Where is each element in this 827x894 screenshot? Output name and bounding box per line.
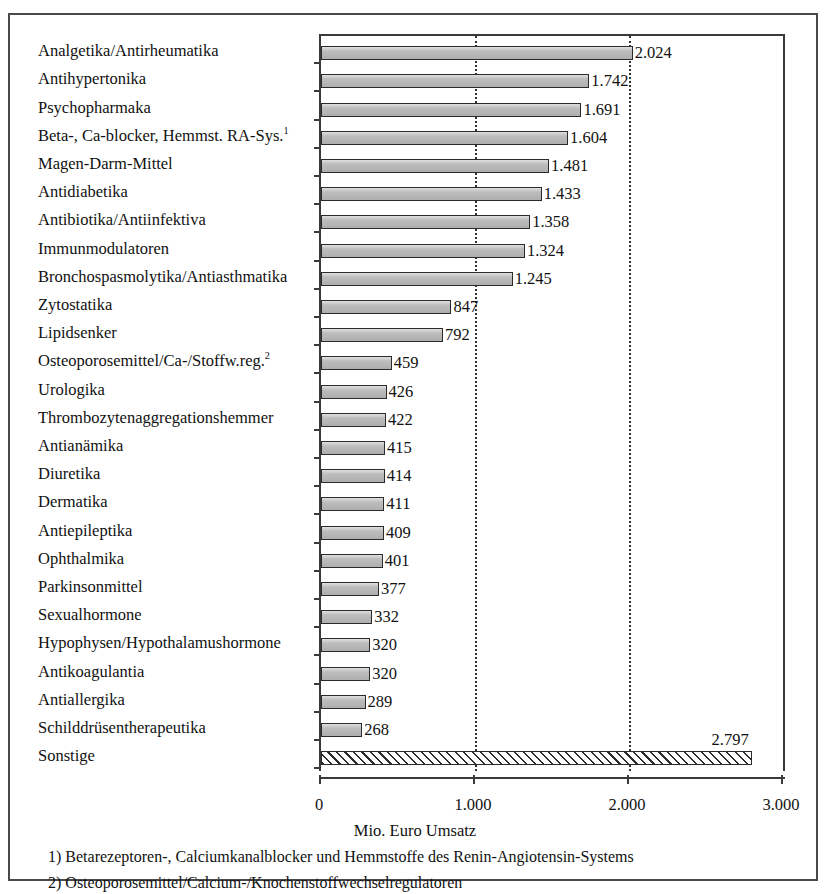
x-tick-mark	[627, 775, 629, 784]
bar-value-label: 1.742	[591, 73, 628, 90]
y-axis-tick	[314, 372, 321, 374]
bar: 1.604	[321, 131, 568, 145]
bar-row: 459	[321, 353, 783, 373]
x-tick-mark	[781, 775, 783, 784]
bar: 1.691	[321, 103, 581, 117]
x-tick-mark	[319, 775, 321, 784]
bar-row: 332	[321, 607, 783, 627]
bar-value-label: 289	[368, 693, 393, 710]
x-axis: 01.0002.0003.000	[319, 777, 785, 779]
x-tick-label: 1.000	[454, 797, 491, 814]
category-label: Beta-, Ca-blocker, Hemmst. RA-Sys.1	[38, 127, 289, 144]
category-label: Antikoagulantia	[38, 663, 144, 680]
category-label: Dermatika	[38, 494, 108, 511]
y-axis-tick	[314, 711, 321, 713]
category-label: Diuretika	[38, 466, 100, 483]
bar-sonstige: 2.797	[321, 751, 752, 765]
bar: 1.324	[321, 244, 525, 258]
bar-row: 1.324	[321, 241, 783, 261]
bar: 1.358	[321, 215, 530, 229]
bar: 409	[321, 526, 384, 540]
bar: 332	[321, 610, 372, 624]
category-label: Hypophysen/Hypothalamushormone	[38, 635, 281, 652]
bar-value-label: 1.245	[515, 270, 552, 287]
category-label: Ophthalmika	[38, 550, 124, 567]
bar-row: 426	[321, 382, 783, 402]
footnote-2: 2) Osteoporosemittel/Calcium-/Knochensto…	[48, 875, 462, 891]
bar-value-label: 1.433	[544, 186, 581, 203]
category-label: Schilddrüsentherapeutika	[38, 720, 206, 737]
bar-value-label: 1.324	[527, 242, 564, 259]
bar: 320	[321, 667, 370, 681]
y-axis-tick	[314, 175, 321, 177]
y-axis-tick	[314, 344, 321, 346]
category-label: Bronchospasmolytika/Antiasthmatika	[38, 268, 287, 285]
bar-row: 289	[321, 692, 783, 712]
bar-value-label: 1.604	[570, 129, 607, 146]
bar: 414	[321, 469, 385, 483]
bar-value-label: 1.481	[551, 158, 588, 175]
footnote-1: 1) Betarezeptoren-, Calciumkanalblocker …	[48, 849, 634, 865]
bar-row: 1.433	[321, 184, 783, 204]
bar: 411	[321, 497, 384, 511]
bar-row: 414	[321, 466, 783, 486]
bar: 847	[321, 300, 451, 314]
category-label: Thrombozytenaggregationshemmer	[38, 409, 274, 426]
x-tick-mark	[473, 775, 475, 784]
bar-value-label: 401	[385, 552, 410, 569]
bar: 1.245	[321, 272, 513, 286]
category-label: Sonstige	[38, 748, 95, 765]
bar-row: 411	[321, 494, 783, 514]
bar: 792	[321, 328, 443, 342]
y-axis-tick	[314, 62, 321, 64]
x-tick-label: 3.000	[762, 797, 799, 814]
chart-figure: 2.0241.7421.6911.6041.4811.4331.3581.324…	[8, 13, 818, 881]
bar-value-label: 2.797	[712, 732, 749, 749]
y-axis-tick	[314, 203, 321, 205]
category-label: Magen-Darm-Mittel	[38, 156, 173, 173]
y-axis-tick	[314, 429, 321, 431]
footnote-marker: 2	[265, 351, 270, 362]
category-label: Antibiotika/Antiinfektiva	[38, 212, 206, 229]
bar-row: 1.691	[321, 100, 783, 120]
bar: 426	[321, 385, 387, 399]
y-axis-tick	[314, 626, 321, 628]
bar-row: 1.358	[321, 212, 783, 232]
y-axis-tick	[314, 767, 321, 769]
category-label: Psychopharmaka	[38, 99, 151, 116]
bar-row: 422	[321, 410, 783, 430]
bar-value-label: 320	[372, 665, 397, 682]
bar-row: 1.604	[321, 128, 783, 148]
bar-row: 377	[321, 579, 783, 599]
y-axis-tick	[314, 90, 321, 92]
plot-area: 2.0241.7421.6911.6041.4811.4331.3581.324…	[319, 34, 785, 771]
bar-value-label: 414	[387, 468, 412, 485]
bar-row: 415	[321, 438, 783, 458]
category-label: Lipidsenker	[38, 325, 117, 342]
y-axis-tick	[314, 485, 321, 487]
y-axis-tick	[314, 542, 321, 544]
bar: 289	[321, 695, 366, 709]
y-axis-tick	[314, 316, 321, 318]
bar-value-label: 459	[394, 355, 419, 372]
bar-row: 2.024	[321, 43, 783, 63]
category-label: Osteoporosemittel/Ca-/Stoffw.reg.2	[38, 353, 270, 370]
y-axis-tick	[314, 147, 321, 149]
category-label: Antiepileptika	[38, 522, 132, 539]
bar-value-label: 411	[386, 496, 410, 513]
y-axis-tick	[314, 570, 321, 572]
bar: 377	[321, 582, 379, 596]
bar: 459	[321, 356, 392, 370]
bar-value-label: 2.024	[635, 45, 672, 62]
bar-row: 409	[321, 523, 783, 543]
category-label: Antianämika	[38, 438, 123, 455]
category-label: Parkinsonmittel	[38, 579, 143, 596]
category-label: Antiallergika	[38, 691, 125, 708]
x-tick-label: 2.000	[608, 797, 645, 814]
x-axis-title: Mio. Euro Umsatz	[10, 823, 820, 840]
bar-row: 1.245	[321, 269, 783, 289]
bar-row: 401	[321, 551, 783, 571]
bar: 320	[321, 638, 370, 652]
bar-value-label: 1.691	[583, 101, 620, 118]
bar: 422	[321, 413, 386, 427]
